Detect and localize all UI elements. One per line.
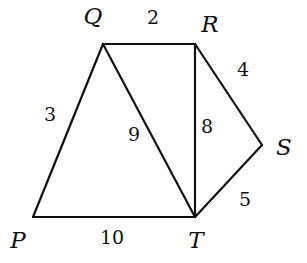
edge-weight-q-r: 2 bbox=[147, 6, 159, 28]
vertex-label-q: Q bbox=[84, 3, 103, 29]
vertex-label-s: S bbox=[276, 134, 292, 160]
edge-weight-p-t: 10 bbox=[100, 226, 124, 248]
edge-weight-r-t: 8 bbox=[201, 115, 213, 137]
edges-group bbox=[33, 44, 262, 217]
vertex-label-t: T bbox=[188, 227, 205, 253]
edge-weight-q-p: 3 bbox=[44, 103, 56, 125]
edge-s-t bbox=[195, 145, 262, 217]
graph-diagram: 24589310 QRSTP bbox=[0, 0, 307, 263]
edge-weight-r-s: 4 bbox=[237, 58, 249, 80]
vertex-label-r: R bbox=[200, 11, 218, 37]
edge-q-p bbox=[33, 44, 103, 217]
edge-weight-q-t: 9 bbox=[128, 123, 140, 145]
vertex-label-p: P bbox=[9, 227, 26, 253]
edge-q-t bbox=[103, 44, 195, 217]
edge-weight-s-t: 5 bbox=[239, 188, 251, 210]
